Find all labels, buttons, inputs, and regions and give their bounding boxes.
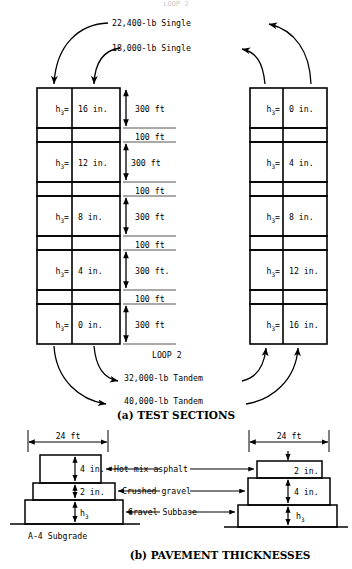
section-length-4: 300 ft. <box>135 266 170 276</box>
load-label-32000: 32,000-lb Tandem <box>124 373 203 383</box>
right-h-label-3: h3= <box>267 212 281 224</box>
right-base-thickness: 4 in. <box>294 487 319 497</box>
left-h-label-4: h3= <box>56 266 70 278</box>
left-gap-box-1 <box>37 128 120 142</box>
section-length-3: 300 ft <box>135 212 165 222</box>
left-gap-box-4 <box>37 290 120 304</box>
left-subbase-layer <box>25 500 123 524</box>
pavement-right <box>190 430 348 527</box>
right-h-value-3: 8 in. <box>289 212 314 222</box>
right-asphalt-thickness: 2 in. <box>294 466 319 476</box>
layer-name-asphalt: Hot mix asphalt <box>114 464 188 474</box>
loop-label: LOOP 2 <box>152 350 182 360</box>
gap-length-3: 100 ft <box>135 240 165 250</box>
right-gap-box-3 <box>250 236 327 250</box>
left-gap-box-2 <box>37 182 120 196</box>
gap-length-2: 100 ft <box>135 186 165 196</box>
right-h-value-5: 16 in. <box>289 320 319 330</box>
right-width-label: 24 ft <box>277 431 302 441</box>
left-asphalt-thickness: 4 in. <box>80 464 105 474</box>
left-column-labels: h3= 16 in. h3= 12 in. h3= 8 in. h3= 4 in… <box>56 104 108 332</box>
left-width-label: 24 ft <box>56 431 81 441</box>
left-h-value-3: 8 in. <box>78 212 103 222</box>
left-h-label-3: h3= <box>56 212 70 224</box>
layer-name-subbase: Gravel Subbase <box>128 507 197 517</box>
right-column-labels: h3= 0 in. h3= 4 in. h3= 8 in. h3= 12 in.… <box>267 104 319 332</box>
left-h-value-2: 12 in. <box>78 158 108 168</box>
right-subbase-thickness: h3 <box>296 511 305 523</box>
left-h-value-5: 0 in. <box>78 320 103 330</box>
left-h-value-4: 4 in. <box>78 266 103 276</box>
arrow-32000-left <box>94 346 118 381</box>
left-base-thickness: 2 in. <box>80 487 105 497</box>
right-h-label-2: h3= <box>267 158 281 170</box>
subgrade-label: A-4 Subgrade <box>28 531 87 541</box>
length-labels: 300 ft 100 ft 300 ft 100 ft 300 ft 100 f… <box>131 104 170 330</box>
section-length-2: 300 ft <box>131 158 161 168</box>
arrow-32000-right <box>242 348 266 381</box>
right-gap-box-2 <box>250 182 327 196</box>
right-h-value-4: 12 in. <box>289 266 319 276</box>
figure-test-sections-and-pavement: LOOP 2 <box>0 0 352 569</box>
load-label-18000: 18,000-lb Single <box>112 43 191 53</box>
section-length-1: 300 ft <box>135 104 165 114</box>
right-gap-box-4 <box>250 290 327 304</box>
load-label-22400: 22,400-lb Single <box>112 18 191 28</box>
left-gap-box-3 <box>37 236 120 250</box>
panel-b-caption: (b) PAVEMENT THICKNESSES <box>130 549 311 561</box>
arrow-40000-left <box>54 346 106 404</box>
top-partial-label: LOOP 2 <box>163 0 188 8</box>
arrow-22400-left <box>54 23 108 84</box>
left-subbase-thickness: h3 <box>80 508 89 520</box>
left-h-label-5: h3= <box>56 320 70 332</box>
left-h-label-1: h3= <box>56 104 70 116</box>
left-h-label-2: h3= <box>56 158 70 170</box>
right-h-label-1: h3= <box>267 104 281 116</box>
arrow-18000-left <box>94 48 120 84</box>
gap-length-1: 100 ft <box>135 132 165 142</box>
arrow-22400-right <box>269 24 311 84</box>
right-h-label-4: h3= <box>267 266 281 278</box>
layer-name-base: Crushed gravel <box>122 486 191 496</box>
right-h-value-1: 0 in. <box>289 104 314 114</box>
top-load-arrows <box>54 23 311 84</box>
right-gap-box-1 <box>250 128 327 142</box>
right-h-label-5: h3= <box>267 320 281 332</box>
left-h-value-1: 16 in. <box>78 104 108 114</box>
arrow-18000-right <box>242 49 265 84</box>
right-h-value-2: 4 in. <box>289 158 314 168</box>
gap-length-4: 100 ft <box>135 294 165 304</box>
section-length-5: 300 ft <box>135 320 165 330</box>
load-label-40000: 40,000-lb Tandem <box>124 396 203 406</box>
panel-a-caption: (a) TEST SECTIONS <box>117 409 235 421</box>
